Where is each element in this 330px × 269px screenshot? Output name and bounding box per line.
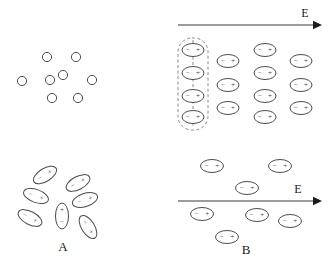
aligned-dipole: −+ bbox=[191, 208, 214, 221]
negative-charge-glyph: − bbox=[221, 81, 225, 89]
aligned-dipole: −+ bbox=[216, 231, 239, 244]
positive-charge-glyph: + bbox=[293, 217, 297, 225]
panel-polar-no-field: −+−+−+−+−++−−+ bbox=[15, 163, 100, 242]
neutral-molecule bbox=[71, 52, 80, 61]
negative-charge-glyph: − bbox=[258, 113, 262, 121]
positive-charge-glyph: + bbox=[283, 162, 287, 170]
negative-charge-glyph: − bbox=[294, 57, 298, 65]
random-dipole: −+ bbox=[31, 163, 60, 188]
positive-charge-glyph: + bbox=[268, 113, 272, 121]
neutral-molecule bbox=[45, 75, 54, 84]
negative-charge-glyph: − bbox=[221, 57, 225, 65]
positive-charge-glyph: + bbox=[304, 104, 308, 112]
field-strength-label: E bbox=[301, 6, 308, 20]
positive-charge-glyph: + bbox=[268, 92, 272, 100]
negative-charge-glyph: − bbox=[273, 162, 277, 170]
random-dipole-body bbox=[31, 163, 60, 188]
negative-charge-glyph: − bbox=[240, 184, 244, 192]
field-strength-label: E bbox=[294, 182, 301, 196]
induced-dipole: −+ bbox=[254, 111, 276, 124]
induced-dipole: −+ bbox=[182, 67, 204, 80]
induced-dipole: −+ bbox=[254, 67, 276, 80]
induced-dipole: −+ bbox=[217, 79, 239, 92]
negative-charge-glyph: − bbox=[60, 218, 64, 226]
random-dipole-body bbox=[22, 185, 51, 206]
random-dipole-body bbox=[76, 213, 101, 242]
aligned-dipole: −+ bbox=[269, 160, 292, 173]
random-dipole: −+ bbox=[15, 206, 44, 230]
induced-dipole: −+ bbox=[217, 55, 239, 68]
field-arrow-head bbox=[313, 21, 322, 29]
negative-charge-glyph: − bbox=[258, 46, 262, 54]
induced-dipole: −+ bbox=[182, 90, 204, 103]
negative-charge-glyph: − bbox=[294, 104, 298, 112]
aligned-dipole: −+ bbox=[246, 209, 269, 222]
neutral-molecule bbox=[58, 70, 67, 79]
random-dipole-body bbox=[63, 171, 92, 195]
random-dipole: −+ bbox=[63, 171, 92, 195]
positive-charge-glyph: + bbox=[230, 233, 234, 241]
random-dipole: −+ bbox=[22, 185, 51, 206]
negative-charge-glyph: − bbox=[186, 46, 190, 54]
random-dipole: −+ bbox=[71, 190, 100, 210]
negative-charge-glyph: − bbox=[186, 113, 190, 121]
positive-charge-glyph: + bbox=[231, 104, 235, 112]
induced-dipole: −+ bbox=[290, 102, 312, 115]
random-dipole: −+ bbox=[76, 213, 101, 242]
aligned-dipole: −+ bbox=[236, 182, 259, 195]
induced-dipole: −+ bbox=[290, 55, 312, 68]
induced-dipole: −+ bbox=[254, 44, 276, 57]
negative-charge-glyph: − bbox=[283, 217, 287, 225]
negative-charge-glyph: − bbox=[221, 104, 225, 112]
panel-label-a: A bbox=[58, 239, 68, 254]
negative-charge-glyph: − bbox=[205, 162, 209, 170]
induced-dipole: −+ bbox=[182, 111, 204, 124]
neutral-molecule bbox=[42, 52, 51, 61]
negative-charge-glyph: − bbox=[258, 69, 262, 77]
random-dipole-body bbox=[71, 190, 100, 210]
induced-dipole: −+ bbox=[182, 44, 204, 57]
negative-charge-glyph: − bbox=[258, 92, 262, 100]
positive-charge-glyph: + bbox=[304, 57, 308, 65]
physics-diagram: −+−+−+−+−+−+−+−+−+−+−+−+−+−+ −+−+−+−+−++… bbox=[0, 0, 330, 269]
negative-charge-glyph: − bbox=[186, 69, 190, 77]
positive-charge-glyph: + bbox=[196, 46, 200, 54]
positive-charge-glyph: + bbox=[196, 113, 200, 121]
field-arrow-head bbox=[313, 197, 322, 205]
neutral-molecule bbox=[73, 93, 82, 102]
induced-dipole: −+ bbox=[290, 79, 312, 92]
aligned-dipole: −+ bbox=[201, 160, 224, 173]
neutral-molecule bbox=[47, 93, 56, 102]
neutral-molecule bbox=[87, 75, 96, 84]
random-dipole-body bbox=[15, 206, 44, 230]
negative-charge-glyph: − bbox=[186, 92, 190, 100]
negative-charge-glyph: − bbox=[250, 211, 254, 219]
neutral-molecule bbox=[17, 76, 26, 85]
induced-dipole: −+ bbox=[217, 102, 239, 115]
positive-charge-glyph: + bbox=[196, 92, 200, 100]
positive-charge-glyph: + bbox=[60, 206, 64, 214]
positive-charge-glyph: + bbox=[215, 162, 219, 170]
aligned-dipole: −+ bbox=[279, 215, 302, 228]
positive-charge-glyph: + bbox=[260, 211, 264, 219]
positive-charge-glyph: + bbox=[205, 210, 209, 218]
diagram-canvas: −+−+−+−+−+−+−+−+−+−+−+−+−+−+ −+−+−+−+−++… bbox=[0, 0, 330, 269]
panel-label-b: B bbox=[242, 242, 251, 257]
positive-charge-glyph: + bbox=[196, 69, 200, 77]
panel-nonpolar-with-field: −+−+−+−+−+−+−+−+−+−+−+−+−+−+ bbox=[178, 38, 312, 130]
positive-charge-glyph: + bbox=[231, 81, 235, 89]
induced-dipole: −+ bbox=[254, 90, 276, 103]
positive-charge-glyph: + bbox=[250, 184, 254, 192]
positive-charge-glyph: + bbox=[304, 81, 308, 89]
negative-charge-glyph: − bbox=[294, 81, 298, 89]
negative-charge-glyph: − bbox=[195, 210, 199, 218]
positive-charge-glyph: + bbox=[268, 69, 272, 77]
random-dipole: +− bbox=[56, 203, 69, 229]
positive-charge-glyph: + bbox=[268, 46, 272, 54]
positive-charge-glyph: + bbox=[231, 57, 235, 65]
negative-charge-glyph: − bbox=[220, 233, 224, 241]
panel-nonpolar-no-field bbox=[17, 52, 96, 102]
